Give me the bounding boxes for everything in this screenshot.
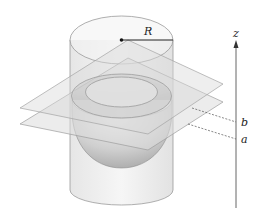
projection-line-a	[188, 124, 236, 139]
a-label: a	[241, 133, 248, 146]
z-axis-label: z	[232, 27, 239, 40]
radius-label: R	[143, 25, 152, 38]
z-axis: z b a	[232, 27, 248, 208]
b-label: b	[241, 116, 248, 129]
hemisphere-cylinder-diagram: R z b a	[0, 0, 260, 216]
z-axis-arrow-icon	[234, 40, 239, 48]
